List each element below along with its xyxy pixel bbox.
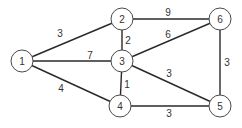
edge-weight-1-2: 3 [57, 28, 63, 39]
weighted-graph: 3742961333 123456 [0, 0, 242, 128]
edge-weight-4-5: 3 [166, 108, 172, 119]
edge-3-6 [122, 19, 220, 61]
edge-1-2 [22, 19, 122, 61]
edge-weight-2-3: 2 [125, 35, 131, 46]
edge-1-4 [22, 61, 120, 106]
node-6: 6 [209, 8, 231, 30]
edge-weight-6-5: 3 [224, 57, 230, 68]
node-label: 5 [217, 101, 223, 112]
node-2: 2 [111, 8, 133, 30]
node-1: 1 [11, 50, 33, 72]
node-4: 4 [109, 95, 131, 117]
edge-labels-layer: 3742961333 [57, 7, 230, 119]
node-5: 5 [209, 95, 231, 117]
edge-weight-3-4: 1 [124, 79, 130, 90]
nodes-layer: 123456 [11, 8, 231, 117]
node-label: 4 [117, 101, 123, 112]
edge-weight-3-6: 6 [165, 29, 171, 40]
edge-weight-2-6: 9 [165, 7, 171, 18]
node-label: 6 [217, 14, 223, 25]
node-label: 2 [119, 14, 125, 25]
edge-weight-3-5: 3 [166, 68, 172, 79]
edge-weight-1-3: 7 [87, 50, 93, 61]
node-3: 3 [111, 50, 133, 72]
edge-weight-1-4: 4 [58, 83, 64, 94]
node-label: 1 [19, 56, 25, 67]
node-label: 3 [119, 56, 125, 67]
